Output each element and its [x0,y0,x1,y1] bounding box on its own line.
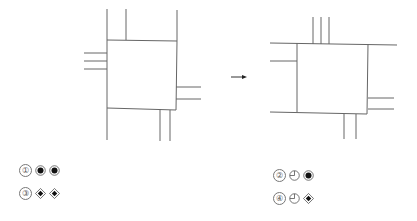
option-3[interactable]: ③ [19,187,60,200]
circle-filled-icon [49,165,60,176]
option-number: ③ [19,187,32,200]
option-4[interactable]: ④ [273,192,314,205]
diamond-filled-icon [303,193,314,204]
option-number: ② [273,169,286,182]
right-figure [270,17,397,139]
option-number: ① [19,164,32,177]
diagram-canvas [0,0,417,221]
option-1[interactable]: ① [19,164,60,177]
option-number: ④ [273,192,286,205]
diamond-filled-icon [35,188,46,199]
left-figure [84,9,201,141]
option-2[interactable]: ② [273,169,314,182]
diamond-filled-icon [49,188,60,199]
circle-filled-icon [35,165,46,176]
circle-quarter-icon [289,193,300,204]
circle-filled-icon [303,170,314,181]
arrow-icon [231,75,247,79]
circle-quarter-icon [289,170,300,181]
